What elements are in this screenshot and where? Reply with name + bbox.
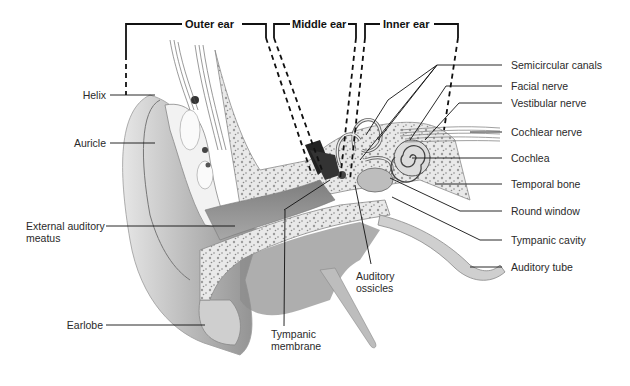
label-external-auditory-meatus-line1: External auditory: [26, 220, 105, 232]
label-auricle: Auricle: [74, 137, 106, 149]
label-vestibular-nerve: Vestibular nerve: [511, 97, 586, 109]
label-round-window: Round window: [511, 205, 580, 217]
label-tympanic-cavity: Tympanic cavity: [511, 234, 586, 246]
label-cochlea: Cochlea: [511, 152, 550, 164]
label-facial-nerve: Facial nerve: [511, 80, 568, 92]
label-tympanic-membrane-line2: membrane: [271, 340, 321, 352]
label-semicircular-canals: Semicircular canals: [511, 59, 602, 71]
label-tympanic-membrane-line1: Tympanic: [271, 328, 321, 340]
section-middle-ear: Middle ear: [290, 18, 348, 30]
label-auditory-tube: Auditory tube: [511, 261, 573, 273]
label-temporal-bone: Temporal bone: [511, 178, 580, 190]
label-auditory-ossicles-line1: Auditory: [356, 270, 395, 282]
temporal-bone-upper: [215, 50, 470, 205]
label-auditory-ossicles-line2: ossicles: [356, 282, 395, 294]
section-outer-ear: Outer ear: [183, 18, 236, 30]
section-inner-ear: Inner ear: [381, 18, 431, 30]
label-cochlear-nerve: Cochlear nerve: [511, 126, 582, 138]
auditory-tube-shape: [378, 215, 505, 280]
label-auditory-ossicles: Auditory ossicles: [356, 270, 395, 294]
label-external-auditory-meatus-line2: meatus: [26, 232, 105, 244]
label-earlobe: Earlobe: [67, 319, 103, 331]
label-tympanic-membrane: Tympanic membrane: [271, 328, 321, 352]
label-helix: Helix: [83, 89, 106, 101]
label-external-auditory-meatus: External auditory meatus: [26, 220, 105, 244]
vestibule: [357, 168, 393, 192]
